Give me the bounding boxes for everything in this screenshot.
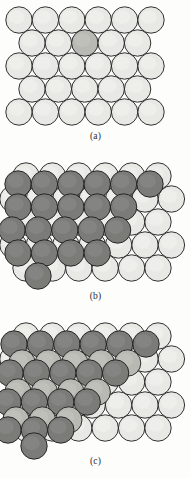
panel-b xyxy=(0,160,191,288)
panel-a-sphere-r0-c1 xyxy=(32,7,58,33)
panel-b-base-sphere-r3-c5 xyxy=(132,232,158,258)
panel-a-sphere-r2-c4 xyxy=(111,53,137,79)
panel-b-island-sphere-r3-c1 xyxy=(31,240,57,266)
panel-b-island-sphere-r1-c4 xyxy=(110,194,136,220)
panel-a-sphere-r3-c4 xyxy=(124,76,150,102)
panel-b-island-sphere-r2-c0 xyxy=(0,217,25,243)
panel-a-sphere-r0-c2 xyxy=(59,7,85,33)
panel-b-canvas xyxy=(0,160,191,292)
panel-a-sphere-r0-c5 xyxy=(138,7,164,33)
panel-c-base-sphere-r2-c5 xyxy=(145,369,171,395)
panel-a-sphere-r0-c0 xyxy=(6,7,32,33)
panel-b-island-sphere-r2-c1 xyxy=(25,217,51,243)
panel-a xyxy=(0,2,191,130)
panel-b-island-sphere-r0-c1 xyxy=(31,171,57,197)
panel-c-base-sphere-r3-c5 xyxy=(132,392,158,418)
panel-a-sphere-r4-c5 xyxy=(138,99,164,125)
panel-a-sphere-r0-c3 xyxy=(85,7,111,33)
panel-c-base-sphere-r4-c5 xyxy=(145,415,171,441)
panel-a-sphere-r2-c3 xyxy=(85,53,111,79)
panel-b-base-sphere-r4-c5 xyxy=(145,255,171,281)
panel-b-island-sphere-r1-c2 xyxy=(58,194,84,220)
panel-b-island-sphere-r1-c0 xyxy=(5,194,31,220)
panel-a-sphere-r0-c4 xyxy=(111,7,137,33)
panel-c-canvas xyxy=(0,320,191,462)
panel-c-caption: (c) xyxy=(0,456,191,466)
panel-a-sphere-r3-c3 xyxy=(98,76,124,102)
panel-b-island-sphere-r0-c5 xyxy=(137,171,163,197)
panel-a-canvas xyxy=(0,2,191,132)
panel-b-island-sphere-r1-c1 xyxy=(31,194,57,220)
panel-a-sphere-r1-c0 xyxy=(19,30,45,56)
panel-a-sphere-r1-c3 xyxy=(98,30,124,56)
panel-c-base-sphere-r4-c3 xyxy=(92,415,118,441)
panel-a-sphere-r2-c0 xyxy=(6,53,32,79)
panel-a-sphere-r4-c1 xyxy=(32,99,58,125)
panel-b-island-sphere-r2-c4 xyxy=(104,217,130,243)
panel-b-island-sphere-r0-c2 xyxy=(58,171,84,197)
panel-b-island-sphere-r3-c2 xyxy=(58,240,84,266)
panel-a-sphere-r1-c2 xyxy=(72,30,98,56)
panel-c-base-sphere-r4-c4 xyxy=(118,415,144,441)
panel-b-island-sphere-r2-c2 xyxy=(52,217,78,243)
panel-c-terrace-sphere-r6-c2 xyxy=(48,417,74,443)
panel-b-island-sphere-r2-c3 xyxy=(78,217,104,243)
panel-a-sphere-r4-c2 xyxy=(59,99,85,125)
panel-b-island-sphere-r1-c3 xyxy=(84,194,110,220)
panel-b-island-sphere-r3-c3 xyxy=(84,240,110,266)
panel-a-sphere-r4-c0 xyxy=(6,99,32,125)
panel-a-sphere-r4-c4 xyxy=(111,99,137,125)
panel-a-sphere-r2-c1 xyxy=(32,53,58,79)
panel-a-sphere-r4-c3 xyxy=(85,99,111,125)
panel-a-sphere-r3-c2 xyxy=(72,76,98,102)
panel-b-caption: (b) xyxy=(0,291,191,301)
panel-a-sphere-r2-c5 xyxy=(138,53,164,79)
panel-a-sphere-r2-c2 xyxy=(59,53,85,79)
panel-a-caption: (a) xyxy=(0,131,191,141)
panel-c-base-sphere-r3-c6 xyxy=(158,392,184,418)
panel-c-base-sphere-r1-c6 xyxy=(158,346,184,372)
panel-b-island-sphere-r0-c0 xyxy=(5,171,31,197)
panel-b-island-sphere-r0-c3 xyxy=(84,171,110,197)
figure-sphere-packing-panels: (a) (b) (c) xyxy=(0,0,191,478)
panel-b-island-sphere-r0-c4 xyxy=(110,171,136,197)
panel-b-base-sphere-r4-c4 xyxy=(118,255,144,281)
panel-a-sphere-r1-c4 xyxy=(124,30,150,56)
panel-b-base-sphere-r3-c6 xyxy=(158,232,184,258)
panel-a-sphere-r1-c1 xyxy=(45,30,71,56)
panel-c-terrace-sphere-r6-c0 xyxy=(0,417,21,443)
panel-b-base-sphere-r2-c5 xyxy=(145,209,171,235)
panel-b-island-sphere-r4-c0 xyxy=(25,263,51,289)
panel-a-sphere-r3-c0 xyxy=(19,76,45,102)
panel-b-island-sphere-r3-c0 xyxy=(5,240,31,266)
panel-a-sphere-r3-c1 xyxy=(45,76,71,102)
panel-c xyxy=(0,320,191,455)
